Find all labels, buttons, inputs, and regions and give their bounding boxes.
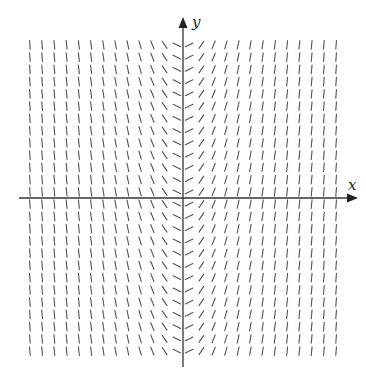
slope-segment bbox=[151, 298, 154, 306]
slope-segment bbox=[103, 41, 104, 49]
slope-segment bbox=[299, 90, 300, 98]
slope-segment bbox=[127, 273, 129, 281]
slope-segment bbox=[324, 212, 325, 220]
slope-segment bbox=[139, 114, 141, 122]
slope-segment bbox=[115, 151, 117, 159]
slope-segment bbox=[30, 224, 31, 232]
slope-segment bbox=[30, 298, 31, 306]
slope-segment bbox=[299, 286, 300, 294]
slope-segment bbox=[91, 41, 92, 49]
slope-segment bbox=[173, 337, 181, 341]
slope-segment bbox=[103, 126, 104, 134]
slope-segment bbox=[225, 102, 227, 110]
slope-segment bbox=[30, 310, 31, 318]
slope-segment bbox=[30, 53, 31, 61]
slope-segment bbox=[237, 65, 239, 73]
slope-segment bbox=[287, 41, 288, 49]
slope-segment bbox=[225, 225, 227, 233]
slope-segment bbox=[173, 325, 181, 329]
slope-segment bbox=[91, 347, 92, 355]
slope-segment bbox=[115, 65, 117, 73]
slope-segment bbox=[103, 261, 104, 269]
slope-segment bbox=[162, 41, 167, 48]
slope-segment bbox=[139, 188, 141, 196]
slope-segment bbox=[250, 126, 252, 134]
slope-segment bbox=[173, 80, 181, 84]
slope-segment bbox=[103, 65, 104, 73]
slope-segment bbox=[42, 237, 43, 245]
slope-segment bbox=[212, 78, 215, 86]
slope-segment bbox=[299, 335, 300, 343]
slope-segment bbox=[237, 77, 239, 85]
slope-segment bbox=[311, 237, 312, 245]
slope-segment bbox=[173, 288, 181, 292]
slope-segment bbox=[78, 273, 79, 281]
slope-segment bbox=[199, 201, 204, 208]
slope-segment bbox=[336, 347, 337, 355]
slope-segment bbox=[225, 41, 227, 49]
slope-segment bbox=[311, 310, 312, 318]
slope-segment bbox=[185, 325, 193, 329]
slope-segment bbox=[103, 286, 104, 294]
slope-segment bbox=[54, 261, 55, 269]
slope-segment bbox=[250, 224, 252, 232]
slope-segment bbox=[324, 139, 325, 147]
slope-segment bbox=[162, 348, 167, 355]
slope-segment bbox=[274, 249, 275, 257]
slope-segment bbox=[91, 200, 92, 208]
slope-segment bbox=[151, 53, 154, 61]
slope-segment bbox=[54, 175, 55, 183]
slope-segment bbox=[324, 347, 325, 355]
slope-segment bbox=[324, 151, 325, 159]
slope-segment bbox=[127, 151, 129, 159]
slope-segment bbox=[311, 139, 312, 147]
slope-segment bbox=[30, 139, 31, 147]
slope-segment bbox=[237, 200, 239, 208]
slope-segment bbox=[299, 224, 300, 232]
slope-segment bbox=[162, 127, 167, 134]
slope-segment bbox=[199, 41, 204, 48]
slope-segment bbox=[162, 335, 167, 342]
slope-segment bbox=[262, 139, 263, 147]
slope-segment bbox=[324, 163, 325, 171]
slope-segment bbox=[42, 200, 43, 208]
slope-segment bbox=[250, 261, 252, 269]
slope-segment bbox=[127, 286, 129, 294]
slope-segment bbox=[173, 178, 181, 182]
slope-segment bbox=[42, 151, 43, 159]
slope-segment bbox=[91, 114, 92, 122]
slope-segment bbox=[115, 53, 117, 61]
slope-segment bbox=[225, 298, 227, 306]
slope-segment bbox=[139, 163, 141, 171]
slope-segment bbox=[78, 261, 79, 269]
slope-segment bbox=[262, 335, 263, 343]
slope-segment bbox=[274, 273, 275, 281]
slope-segment bbox=[336, 126, 337, 134]
slope-segment bbox=[91, 273, 92, 281]
slope-segment bbox=[250, 237, 252, 245]
slope-segment bbox=[250, 310, 252, 318]
slope-segment bbox=[262, 322, 263, 330]
slope-segment bbox=[299, 151, 300, 159]
slope-segment bbox=[66, 77, 67, 85]
slope-segment bbox=[78, 41, 79, 49]
slope-segment bbox=[287, 249, 288, 257]
slope-segment bbox=[212, 225, 215, 233]
slope-segment bbox=[151, 261, 154, 269]
slope-segment bbox=[78, 90, 79, 98]
slope-segment bbox=[78, 249, 79, 257]
slope-segment bbox=[225, 188, 227, 196]
slope-segment bbox=[115, 335, 117, 343]
slope-segment bbox=[299, 126, 300, 134]
slope-segment bbox=[78, 286, 79, 294]
slope-segment bbox=[299, 249, 300, 257]
slope-segment bbox=[115, 286, 117, 294]
slope-segment bbox=[250, 114, 252, 122]
slope-segment bbox=[274, 77, 275, 85]
slope-segment bbox=[311, 90, 312, 98]
slope-segment bbox=[324, 53, 325, 61]
slope-segment bbox=[299, 298, 300, 306]
slope-segment bbox=[262, 188, 263, 196]
slope-segment bbox=[311, 175, 312, 183]
slope-segment bbox=[151, 176, 154, 184]
